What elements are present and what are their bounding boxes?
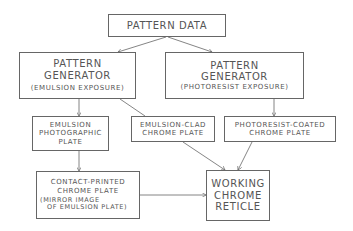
node-label: CHROME PLATE (57, 187, 119, 195)
node-note: OF EMULSION PLATE) (47, 204, 127, 211)
node-pattern-data: PATTERN DATA (108, 14, 226, 37)
node-label: GENERATOR (44, 70, 111, 82)
node-label: PATTERN (53, 58, 101, 70)
node-note: (PHOTORESIST EXPOSURE) (181, 83, 289, 91)
node-label: CHROME PLATE (249, 129, 311, 137)
node-label: PATTERN (210, 60, 258, 72)
node-label: EMULSION (50, 121, 92, 129)
node-label: CONTACT-PRINTED (51, 178, 126, 186)
node-label: RETICLE (215, 201, 260, 213)
node-emulsion-photographic-plate: EMULSION PHOTOGRAPHIC PLATE (32, 116, 109, 151)
node-label: PHOTORESIST-COATED (235, 121, 326, 129)
node-note: (EMULSION EXPOSURE) (31, 84, 125, 92)
node-working-chrome-reticle: WORKING CHROME RETICLE (206, 170, 270, 221)
node-label: CHROME (214, 190, 262, 202)
node-pattern-generator-photoresist: PATTERN GENERATOR (PHOTORESIST EXPOSURE) (165, 52, 304, 99)
node-emulsion-clad-chrome-plate: EMULSION-CLAD CHROME PLATE (131, 116, 215, 142)
node-label: PHOTOGRAPHIC (39, 129, 102, 137)
node-label: GENERATOR (201, 71, 268, 83)
node-contact-printed-chrome-plate: CONTACT-PRINTED CHROME PLATE (MIRROR IMA… (36, 171, 140, 219)
node-label: CHROME PLATE (142, 129, 204, 137)
node-pattern-generator-emulsion: PATTERN GENERATOR (EMULSION EXPOSURE) (19, 52, 136, 99)
node-photoresist-coated-chrome-plate: PHOTORESIST-COATED CHROME PLATE (224, 116, 336, 142)
node-label: WORKING (211, 178, 265, 190)
node-label: PATTERN DATA (127, 20, 207, 32)
node-label: EMULSION-CLAD (140, 121, 206, 129)
node-label: PLATE (58, 138, 82, 146)
